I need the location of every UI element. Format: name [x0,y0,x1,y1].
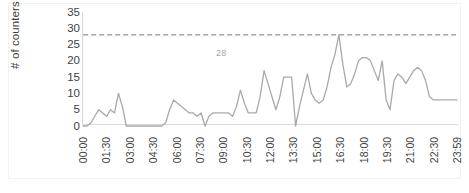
y-axis-tick-30: 30 [46,23,80,34]
y-axis-tick-15: 15 [46,72,80,83]
y-axis-tick-10: 10 [46,88,80,99]
x-axis-tick-23:59: 23:59 [435,128,469,172]
chart-figure: # of counters 05101520253035 28 00:0001:… [0,0,469,193]
x-axis-tick-labels: 00:0001:3003:0004:3006:0007:3009:0010:30… [83,128,457,178]
y-axis-title: # of counters [9,0,27,95]
series-svg [83,12,457,126]
y-axis-tick-35: 35 [46,7,80,18]
y-axis-tick-20: 20 [46,55,80,66]
y-axis-tick-5: 5 [46,104,80,115]
y-axis-tick-25: 25 [46,39,80,50]
y-axis-tick-labels: 05101520253035 [46,10,80,130]
threshold-value-label: 28 [216,48,226,58]
counters-series-line [83,35,457,126]
plot-area [83,12,457,126]
x-axis-tick-label: 23:59 [451,128,463,172]
